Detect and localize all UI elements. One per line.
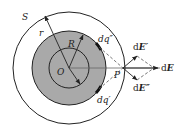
label-surface-s: S [22,12,28,22]
dashed-parallelogram-lower [137,68,154,80]
label-field-lower: dE″ [133,83,150,93]
label-field-upper: dE′ [133,42,149,52]
gauss-sphere-diagram: S r R O P dq″ dq′ dE′ dE″ dE [0,0,184,138]
label-field-total: dE [161,63,174,73]
label-radius-r: r [39,28,44,38]
label-charge-upper: dq″ [98,34,114,44]
dashed-parallelogram-upper [137,56,154,68]
label-center-o: O [57,67,65,77]
label-point-p: P [113,70,121,80]
label-radius-R: R [67,39,75,49]
label-charge-lower: dq′ [97,95,111,105]
